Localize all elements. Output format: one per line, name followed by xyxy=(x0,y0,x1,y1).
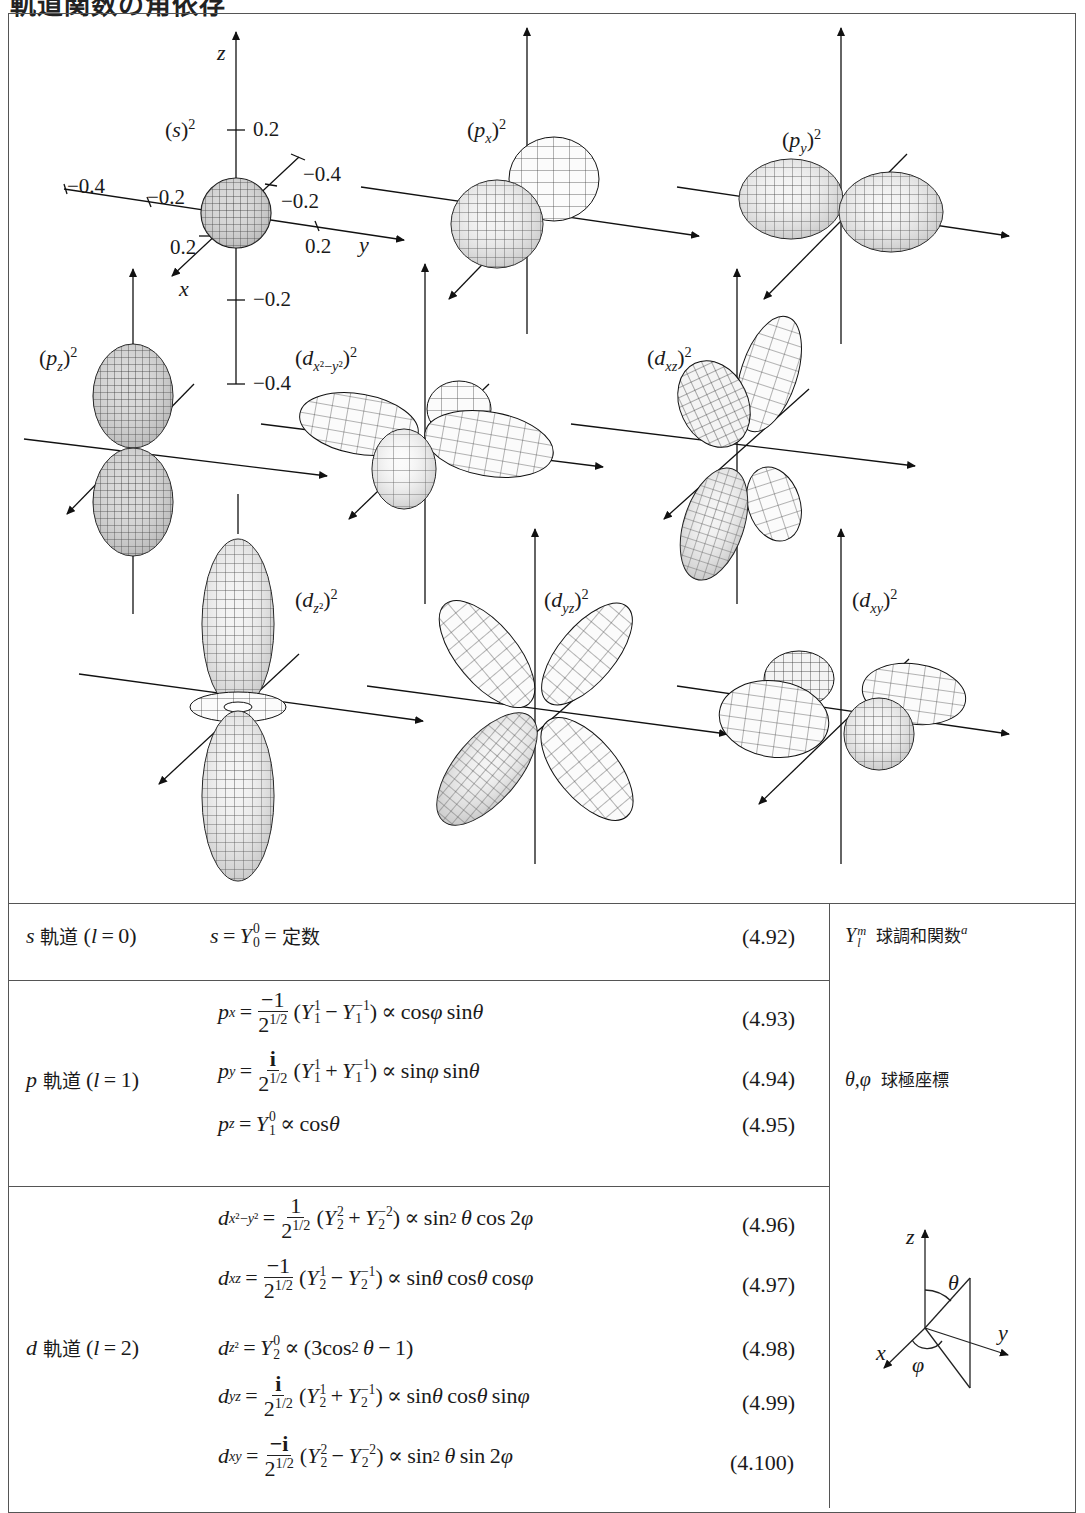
row-name-s: s 軌道 (l = 0) xyxy=(26,922,137,949)
tick-y-neg2: −0.4 xyxy=(67,174,105,199)
label-pz-squared: (pz)2 xyxy=(39,344,77,375)
eq-number-4-95: (4.95) xyxy=(742,1112,795,1138)
tick-z-pos: 0.2 xyxy=(253,117,279,142)
tick-x-neg2: −0.4 xyxy=(303,162,341,187)
sidebar-ylm-definition: Yml 球調和関数a xyxy=(845,922,968,950)
eq-number-4-93: (4.93) xyxy=(742,1006,795,1032)
label-s-squared: (s)2 xyxy=(165,116,195,143)
diagram-y-label: y xyxy=(998,1320,1008,1346)
divider-figure-table xyxy=(9,903,1075,904)
label-dxz-squared: (dxz)2 xyxy=(647,344,692,375)
diagram-phi-label: φ xyxy=(912,1352,924,1378)
eq-number-4-100: (4.100) xyxy=(730,1450,794,1476)
diagram-x-label: x xyxy=(876,1340,886,1366)
panel-py xyxy=(677,28,1009,344)
eq-number-4-96: (4.96) xyxy=(742,1212,795,1238)
label-dyz-squared: (dyz)2 xyxy=(544,586,589,617)
eq-number-4-99: (4.99) xyxy=(742,1390,795,1416)
divider-s-p xyxy=(9,980,829,981)
equation-4-97: dxz =−121/2(Y12 − Y−12) ∝ sinθ cosθ cosφ xyxy=(218,1254,533,1303)
axis-label-z: z xyxy=(217,40,226,66)
axis-label-y: y xyxy=(359,232,369,258)
label-dxy-squared: (dxy)2 xyxy=(852,586,898,617)
equation-4-92: s = Y00 = 定数 xyxy=(210,922,320,949)
equation-4-100: dxy =−i21/2(Y22 − Y−22) ∝ sin2 θ sin 2φ xyxy=(218,1432,513,1481)
tick-y-neg1: −0.2 xyxy=(147,185,185,210)
eq-number-4-97: (4.97) xyxy=(742,1272,795,1298)
equation-4-94: py =i21/2(Y11 + Y−11) ∝ sinφ sinθ xyxy=(218,1047,480,1096)
row-name-p: p 軌道 (l = 1) xyxy=(26,1066,139,1093)
tick-x-pos: 0.2 xyxy=(170,235,196,260)
tick-x-neg1: −0.2 xyxy=(281,189,319,214)
tick-z-neg1: −0.2 xyxy=(253,287,291,312)
row-name-d: d 軌道 (l = 2) xyxy=(26,1334,139,1361)
tick-y-pos: 0.2 xyxy=(305,234,331,259)
orbital-figure: (s)2 (px)2 (py)2 (pz)2 (dx²−y²)2 (dxz)2 … xyxy=(9,14,1075,903)
sidebar-angles-definition: θ,φ 球極座標 xyxy=(845,1066,949,1091)
tick-z-neg2: −0.4 xyxy=(253,371,291,396)
label-px-squared: (px)2 xyxy=(467,116,506,147)
equation-4-95: pz = Y01 ∝ cosθ xyxy=(218,1110,340,1137)
divider-sidebar xyxy=(829,903,830,1508)
panel-pz xyxy=(24,269,327,614)
diagram-theta-label: θ xyxy=(948,1270,959,1296)
eq-number-4-98: (4.98) xyxy=(742,1336,795,1362)
equation-4-96: dx²−y² =121/2(Y22 + Y−22) ∝ sin2 θ cos 2… xyxy=(218,1194,533,1243)
axis-label-x: x xyxy=(179,276,189,302)
eq-number-4-94: (4.94) xyxy=(742,1066,795,1092)
orbital-plots-svg xyxy=(9,14,1075,903)
label-py-squared: (py)2 xyxy=(782,126,821,157)
equation-4-93: px =−121/2(Y11 − Y−11) ∝ cosφ sinθ xyxy=(218,988,483,1037)
equation-4-99: dyz =i21/2(Y12 + Y−12) ∝ sinθ cosθ sinφ xyxy=(218,1372,530,1421)
label-dx2y2-squared: (dx²−y²)2 xyxy=(295,344,357,375)
label-dz2-squared: (dz²)2 xyxy=(295,586,338,617)
equation-4-98: dz² = Y02 ∝ (3cos2 θ − 1) xyxy=(218,1334,413,1361)
divider-p-d xyxy=(9,1186,829,1187)
diagram-z-label: z xyxy=(906,1224,915,1250)
eq-number-4-92: (4.92) xyxy=(742,924,795,950)
